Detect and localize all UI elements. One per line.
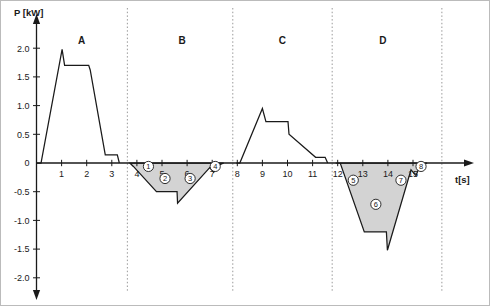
x-tick-label-12: 13: [358, 169, 368, 179]
x-tick-label-7: 8: [235, 169, 240, 179]
area-marker-label-6: 6: [374, 200, 378, 209]
power-time-chart: 2.01.51.00.50-0.5-1.0-1.5-2.012345678910…: [0, 0, 490, 306]
x-tick-label-14: 15: [408, 169, 418, 179]
x-tick-label-2: 3: [109, 169, 114, 179]
y-tick-label-3: 0.5: [17, 130, 30, 140]
x-tick-label-13: 14: [383, 169, 393, 179]
y-tick-label-6: -1.0: [14, 216, 30, 226]
area-marker-label-8: 8: [419, 162, 423, 171]
area-marker-label-2: 2: [163, 174, 167, 183]
area-marker-label-3: 3: [188, 174, 192, 183]
x-tick-label-0: 1: [59, 169, 64, 179]
y-tick-label-8: -2.0: [14, 273, 30, 283]
chart-background: [0, 0, 490, 306]
y-tick-label-5: -0.5: [14, 187, 30, 197]
section-label-B: B: [178, 35, 185, 46]
y-tick-label-7: -1.5: [14, 244, 30, 254]
x-tick-label-8: 9: [260, 169, 265, 179]
y-tick-label-4: 0: [24, 158, 29, 168]
area-marker-label-4: 4: [213, 162, 217, 171]
y-tick-label-2: 1.0: [17, 101, 30, 111]
area-marker-label-7: 7: [399, 176, 403, 185]
x-tick-label-3: 4: [134, 169, 139, 179]
x-tick-label-10: 11: [308, 169, 317, 179]
area-marker-label-5: 5: [351, 176, 355, 185]
y-tick-label-0: 2.0: [17, 44, 30, 54]
y-tick-label-1: 1.5: [17, 72, 30, 82]
section-label-D: D: [379, 35, 386, 46]
x-axis-label: t[s]: [455, 174, 470, 185]
x-tick-label-9: 10: [282, 169, 292, 179]
x-tick-label-1: 2: [84, 169, 89, 179]
section-label-A: A: [78, 35, 85, 46]
x-tick-label-11: 12: [333, 169, 343, 179]
section-label-C: C: [279, 35, 286, 46]
area-marker-label-1: 1: [146, 162, 150, 171]
y-axis-label: P [kW]: [14, 7, 43, 18]
